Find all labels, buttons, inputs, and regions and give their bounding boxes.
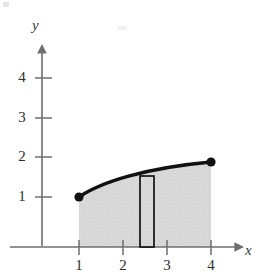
y-tick-label-1: 1 bbox=[14, 189, 30, 204]
x-tick-label-1: 1 bbox=[71, 258, 87, 273]
x-axis-label: x bbox=[245, 243, 252, 258]
representative-rectangle bbox=[140, 176, 154, 247]
y-axis-ticks bbox=[35, 78, 52, 197]
curve-endpoint-right bbox=[206, 157, 215, 166]
plot-canvas bbox=[0, 0, 256, 280]
x-tick-label-3: 3 bbox=[159, 258, 175, 273]
x-tick-label-2: 2 bbox=[115, 258, 131, 273]
y-tick-label-3: 3 bbox=[14, 110, 30, 125]
y-axis-label: y bbox=[32, 18, 39, 33]
y-tick-label-4: 4 bbox=[14, 70, 30, 85]
x-tick-label-4: 4 bbox=[203, 258, 219, 273]
curve-endpoint-left bbox=[74, 192, 83, 201]
figure-container: y x 4 3 2 1 1 2 3 4 bbox=[0, 0, 256, 280]
y-tick-label-2: 2 bbox=[14, 149, 30, 164]
